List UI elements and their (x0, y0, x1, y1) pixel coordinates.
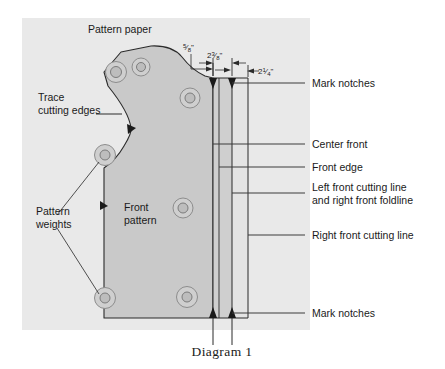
pattern-diagram-canvas: 5⁄8" 23⁄8" 21⁄4" (0, 0, 445, 369)
right-front-cutting-line-label: Right front cutting line (312, 229, 414, 241)
right-facing-band (232, 78, 248, 318)
mark-notches-top-label: Mark notches (312, 77, 375, 89)
trace-cutting-edges-label-line2: cutting edges (38, 104, 100, 116)
weight-5 (173, 198, 193, 218)
front-pattern-piece (104, 46, 213, 318)
mark-notches-bottom-label: Mark notches (312, 307, 375, 319)
front-pattern-label-line1: Front (124, 201, 149, 213)
dim-2-14-label: 21⁄4" (258, 67, 273, 78)
weight-7 (177, 287, 198, 308)
center-front-label: Center front (312, 138, 368, 150)
facing-extension-band (213, 78, 232, 318)
weight-2 (132, 58, 150, 76)
figure-caption: Diagram 1 (192, 344, 253, 359)
diagram-figure: 5⁄8" 23⁄8" 21⁄4" (0, 0, 445, 369)
weight-6 (95, 288, 116, 309)
pattern-weights-label-line1: Pattern (36, 205, 70, 217)
weight-3 (180, 88, 200, 108)
pattern-paper-label: Pattern paper (88, 23, 152, 35)
left-front-cutting-line-label-line2: and right front foldline (312, 194, 413, 206)
left-front-cutting-line-label-line1: Left front cutting line (312, 181, 407, 193)
front-pattern-label-line2: pattern (124, 214, 157, 226)
pattern-weights-label-line2: weights (35, 218, 72, 230)
front-edge-label: Front edge (312, 161, 363, 173)
trace-cutting-edges-label-line1: Trace (38, 91, 65, 103)
dim-2-38-label: 23⁄8" (207, 51, 222, 62)
weight-4 (95, 145, 116, 166)
weight-1 (106, 62, 127, 83)
